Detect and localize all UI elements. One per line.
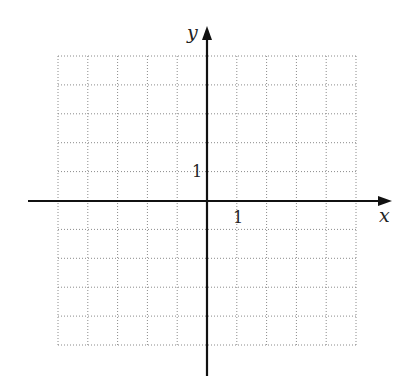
x-axis-label: x xyxy=(379,204,390,226)
y-axis-label: y xyxy=(186,21,198,43)
y-tick-label-1: 1 xyxy=(192,162,202,181)
y-axis-arrow-icon xyxy=(202,26,212,40)
x-tick-label-1: 1 xyxy=(233,208,243,227)
coordinate-plane: x y 1 1 xyxy=(0,0,412,381)
